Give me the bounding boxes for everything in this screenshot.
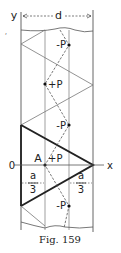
charge-label: +P: [48, 79, 62, 90]
origin-label: 0: [9, 160, 15, 171]
figure-159-diagram: d y , -P +P -P +P -P 0 x A a 3 a 3 Fig. …: [0, 0, 121, 253]
charge-dot: [67, 204, 70, 207]
bottom-break-line: [21, 222, 93, 228]
charge-dot: [43, 82, 46, 85]
figure-caption: Fig. 159: [39, 234, 81, 245]
point-a-label: A: [34, 152, 42, 165]
charge-label: -P: [56, 200, 66, 211]
charge-dot: [67, 123, 70, 126]
a3-right-numerator: a: [78, 170, 84, 181]
a3-right-denominator: 3: [78, 184, 84, 195]
charge-label: -P: [56, 120, 66, 131]
top-break-line: [21, 28, 93, 32]
charge-label: +P: [48, 153, 62, 164]
y-axis-label: y: [11, 9, 18, 22]
a3-left-numerator: a: [30, 170, 36, 181]
charge-label: -P: [56, 39, 66, 50]
a3-left-denominator: 3: [30, 184, 36, 195]
charge-dot: [67, 43, 70, 46]
svg-text:,: ,: [5, 28, 7, 35]
x-axis-label: x: [107, 160, 113, 171]
dimension-label: d: [55, 9, 62, 22]
